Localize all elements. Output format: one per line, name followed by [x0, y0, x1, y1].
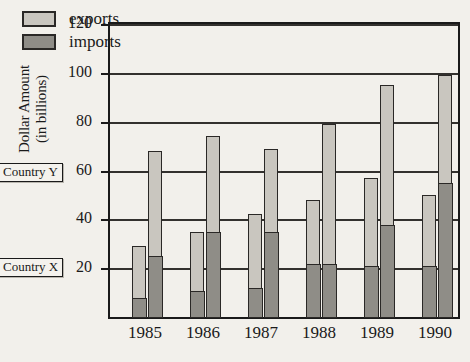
- bar-segment-imports: [206, 232, 221, 317]
- bar-segment-imports: [380, 225, 395, 318]
- bar-chart: Dollar Amount (in billions) 204060801001…: [0, 0, 470, 362]
- legend-item-imports: imports: [22, 33, 121, 50]
- gridline: [110, 122, 458, 124]
- gridline: [110, 73, 458, 75]
- bar-country-y-1986: [206, 136, 220, 317]
- plot-area: [108, 22, 460, 319]
- legend-label-imports: imports: [69, 33, 121, 50]
- bar-country-x-1989: [364, 178, 378, 317]
- y-axis-tick: [101, 73, 110, 75]
- x-axis-tick-label: 1987: [244, 323, 278, 343]
- y-axis-tick: [101, 219, 110, 221]
- bar-country-y-1987: [264, 149, 278, 317]
- y-axis-tick-label: 100: [68, 63, 92, 81]
- legend-label-exports: exports: [69, 10, 119, 27]
- bar-country-x-1990: [422, 195, 436, 317]
- gridline: [110, 171, 458, 173]
- bar-country-x-1986: [190, 232, 204, 317]
- y-axis-tick: [101, 171, 110, 173]
- bar-country-x-1988: [306, 200, 320, 317]
- bar-segment-imports: [148, 256, 163, 317]
- callout-country-y: Country Y: [0, 163, 63, 182]
- y-axis-tick-label: 40: [76, 209, 92, 227]
- y-axis-tick-label: 20: [76, 258, 92, 276]
- x-axis-tick-label: 1990: [418, 323, 452, 343]
- x-axis-tick-label: 1985: [128, 323, 162, 343]
- bar-segment-imports: [422, 266, 437, 317]
- bar-segment-imports: [190, 291, 205, 318]
- legend-swatch-exports-icon: [22, 11, 56, 27]
- bar-segment-imports: [264, 232, 279, 317]
- gridline: [110, 219, 458, 221]
- callout-country-x: Country X: [0, 258, 63, 277]
- y-axis-tick-label: 80: [76, 112, 92, 130]
- bar-segment-imports: [306, 264, 321, 318]
- y-axis-tick-label: 60: [76, 161, 92, 179]
- bar-country-x-1985: [132, 246, 146, 317]
- x-axis-tick-label: 1989: [360, 323, 394, 343]
- bar-country-y-1990: [438, 75, 452, 317]
- bar-country-y-1988: [322, 124, 336, 317]
- x-axis-tick-label: 1986: [186, 323, 220, 343]
- bar-country-y-1985: [148, 151, 162, 317]
- legend-swatch-imports-icon: [22, 34, 56, 50]
- y-axis-tick: [101, 122, 110, 124]
- bar-segment-imports: [248, 288, 263, 317]
- x-axis-tick-label: 1988: [302, 323, 336, 343]
- bar-segment-imports: [322, 264, 337, 318]
- gridline: [110, 24, 458, 26]
- x-axis-tick-labels: 198519861987198819891990: [108, 323, 460, 353]
- y-axis-tick: [101, 268, 110, 270]
- bar-segment-imports: [438, 183, 453, 317]
- legend: exports imports: [22, 10, 121, 56]
- plot-inner: [110, 24, 458, 317]
- bar-country-x-1987: [248, 214, 262, 317]
- bar-segment-imports: [132, 298, 147, 318]
- bar-country-y-1989: [380, 85, 394, 317]
- bar-segment-imports: [364, 266, 379, 317]
- legend-item-exports: exports: [22, 10, 121, 27]
